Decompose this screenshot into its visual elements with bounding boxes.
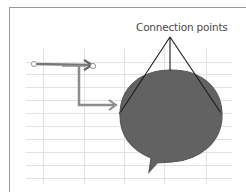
- connector-start-handle: [31, 61, 36, 66]
- connection-points-label: Connection points: [136, 21, 228, 33]
- straight-connector[interactable]: [31, 60, 95, 70]
- connector-end-handle: [90, 63, 95, 68]
